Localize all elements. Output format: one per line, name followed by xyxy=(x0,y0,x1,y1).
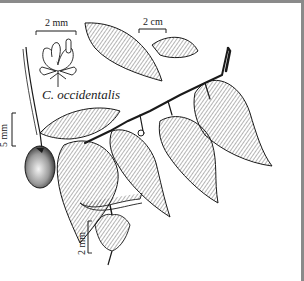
species-label: C. occidentalis xyxy=(42,87,120,103)
flower-detail-top xyxy=(36,31,76,87)
leaf xyxy=(85,23,162,81)
leaf xyxy=(110,130,170,217)
leaves xyxy=(40,23,272,243)
illustration-frame: 2 mm 2 cm C. occidentalis 5 mm 2 mm xyxy=(0,0,304,281)
scale-label-flower-bottom: 2 mm xyxy=(76,232,87,255)
leaf xyxy=(152,37,198,57)
branch-scale-bar xyxy=(139,29,166,33)
botanical-illustration xyxy=(0,3,301,281)
fruit-scale-bar xyxy=(12,113,16,146)
scale-label-branch: 2 cm xyxy=(143,16,163,27)
scale-label-flower-top: 2 mm xyxy=(45,17,68,28)
scale-label-fruit: 5 mm xyxy=(0,124,9,147)
leaf xyxy=(40,108,120,139)
